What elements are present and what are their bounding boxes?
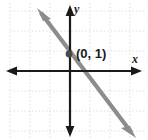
x-axis — [6, 67, 142, 76]
x-axis-arrow-left — [6, 67, 17, 76]
coordinate-plane-figure: (0, 1) y x — [0, 0, 148, 140]
point-marker-0-1 — [66, 51, 73, 58]
graph-canvas — [0, 0, 148, 140]
y-axis-arrow-down — [66, 126, 75, 137]
x-axis-arrow-right — [131, 67, 142, 76]
line-arrowhead-upper-left — [37, 8, 51, 21]
line-arrowhead-lower-right — [121, 126, 136, 138]
x-axis-label: x — [132, 52, 138, 67]
point-label-0-1: (0, 1) — [76, 46, 106, 61]
plotted-line — [37, 8, 136, 138]
y-axis-label: y — [74, 2, 79, 17]
